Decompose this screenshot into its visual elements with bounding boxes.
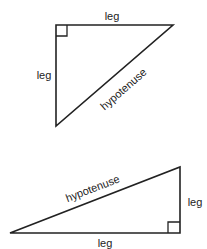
upper-top-leg-label: leg	[105, 10, 120, 22]
lower-triangle-shape	[10, 167, 180, 233]
upper-triangle-shape	[56, 25, 173, 126]
right-triangles-diagram: leg leg hypotenuse hypotenuse leg leg	[0, 0, 207, 249]
right-angle-marker-icon	[56, 25, 67, 36]
right-angle-marker-icon	[168, 222, 180, 233]
lower-right-leg-label: leg	[188, 196, 203, 208]
upper-triangle: leg leg hypotenuse	[37, 10, 173, 126]
lower-hypotenuse-label: hypotenuse	[64, 172, 121, 204]
lower-triangle: hypotenuse leg leg	[10, 167, 202, 249]
lower-bottom-leg-label: leg	[98, 237, 113, 249]
upper-hypotenuse-label: hypotenuse	[98, 66, 149, 112]
upper-left-leg-label: leg	[37, 69, 52, 81]
